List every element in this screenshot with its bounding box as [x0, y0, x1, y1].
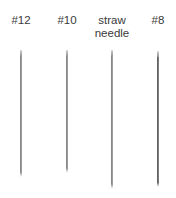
label-needle-8: #8 — [133, 14, 176, 27]
needle-tip — [157, 182, 159, 187]
needle-8-image — [157, 51, 159, 187]
needle-shaft — [157, 57, 159, 183]
label-straw-line2: needle — [87, 27, 137, 40]
needle-tip — [111, 184, 113, 189]
needle-tip — [20, 172, 22, 177]
straw-needle-image — [111, 50, 113, 189]
needle-12-image — [20, 50, 22, 177]
label-straw-needle: straw needle — [87, 14, 137, 40]
label-straw-line1: straw — [87, 14, 137, 27]
label-needle-12: #12 — [0, 14, 46, 27]
needle-shaft — [111, 56, 113, 185]
needle-shaft — [66, 56, 68, 169]
needle-tip — [66, 168, 68, 173]
needle-10-image — [66, 50, 68, 173]
label-needle-10: #10 — [42, 14, 92, 27]
needle-shaft — [20, 56, 22, 173]
